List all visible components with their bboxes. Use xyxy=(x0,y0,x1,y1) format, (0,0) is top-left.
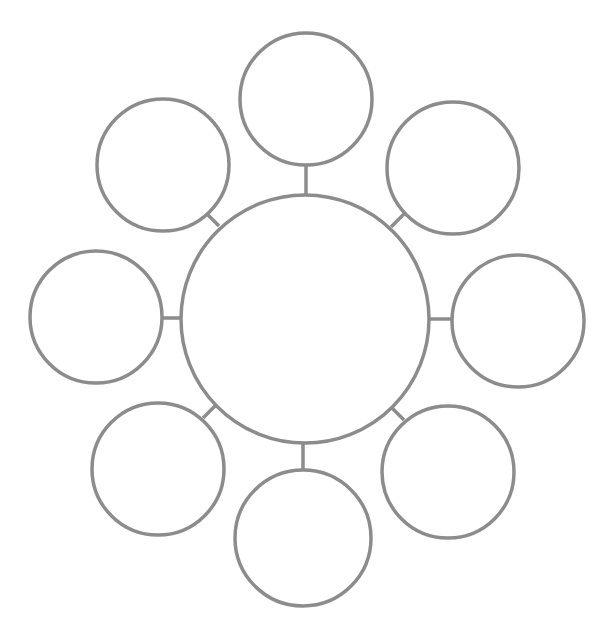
satellite-right[interactable] xyxy=(452,255,584,387)
satellite-top[interactable] xyxy=(240,33,372,165)
bubble-map-diagram xyxy=(0,0,615,631)
satellite-circle-top[interactable] xyxy=(240,33,372,165)
satellite-left[interactable] xyxy=(30,251,162,383)
satellite-circle-right[interactable] xyxy=(452,255,584,387)
connector-bottom-right xyxy=(392,408,404,420)
connector-bottom-left xyxy=(203,405,216,418)
satellite-circle-top-right[interactable] xyxy=(387,102,519,234)
satellite-top-right[interactable] xyxy=(387,102,519,234)
satellite-bottom-left[interactable] xyxy=(92,403,224,535)
satellite-circle-left[interactable] xyxy=(30,251,162,383)
connector-top-right xyxy=(391,214,404,227)
satellite-circle-top-left[interactable] xyxy=(97,99,229,231)
connector-top-left xyxy=(207,214,219,226)
center-bubble[interactable] xyxy=(181,195,429,443)
satellite-bottom-right[interactable] xyxy=(382,406,514,538)
satellite-circle-bottom-right[interactable] xyxy=(382,406,514,538)
satellite-circle-bottom[interactable] xyxy=(235,470,371,606)
satellite-bottom[interactable] xyxy=(235,470,371,606)
satellite-circle-bottom-left[interactable] xyxy=(92,403,224,535)
satellite-top-left[interactable] xyxy=(97,99,229,231)
center-circle[interactable] xyxy=(181,195,429,443)
